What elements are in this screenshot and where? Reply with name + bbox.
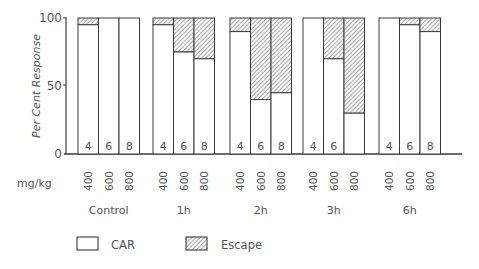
bar	[324, 18, 345, 154]
bar-segment-escape	[324, 18, 345, 59]
bar-count-label: 6	[257, 140, 264, 153]
bar-count-label: 8	[126, 140, 133, 153]
bar-segment-car	[153, 25, 174, 154]
bar-segment-escape	[78, 18, 99, 25]
bar-count-label: 4	[85, 140, 92, 153]
bar-count-label: 6	[180, 140, 187, 153]
bar	[230, 18, 251, 154]
bar-segment-car	[379, 18, 400, 154]
dose-label: 800	[198, 171, 210, 191]
x-unit-label: mg/kg	[17, 177, 52, 190]
dose-label: 600	[404, 171, 416, 191]
bar	[379, 18, 400, 154]
legend-swatch-escape	[186, 237, 207, 250]
bar	[119, 18, 140, 154]
bar-segment-car	[174, 52, 195, 154]
group-label: Control	[89, 204, 129, 217]
dose-label: 800	[424, 171, 436, 191]
bar-count-label: 4	[237, 140, 244, 153]
bar-count-label: 4	[160, 140, 167, 153]
bar-count-label: 8	[278, 140, 285, 153]
dose-label: 800	[348, 171, 360, 191]
legend: CAR Escape	[77, 237, 262, 252]
bar-segment-escape	[420, 18, 441, 32]
legend-label-car: CAR	[111, 238, 135, 252]
dose-label: 400	[307, 171, 319, 191]
bar	[174, 18, 195, 154]
bar-chart: Per Cent Response 100 50 0 4684684684646…	[0, 0, 479, 269]
y-axis-title: Per Cent Response	[30, 34, 43, 138]
dose-label: 400	[157, 171, 169, 191]
bar-segment-car	[78, 25, 99, 154]
dose-label: 400	[82, 171, 94, 191]
bar	[271, 18, 292, 154]
y-tick-label: 0	[54, 147, 62, 161]
bar-segment-car	[400, 25, 421, 154]
bar-count-label: 6	[406, 140, 413, 153]
bar-count-label: 6	[105, 140, 112, 153]
group-labels: Control1h2h3h6h	[89, 204, 417, 217]
group-label: 3h	[327, 204, 341, 217]
dose-label: 600	[255, 171, 267, 191]
group-label: 2h	[254, 204, 268, 217]
dose-labels: 4006008004006008004006008004006008004006…	[82, 171, 436, 191]
bar	[400, 18, 421, 154]
bar	[420, 18, 441, 154]
group-label: 1h	[177, 204, 191, 217]
y-tick-label: 50	[47, 79, 62, 93]
bar-segment-escape	[174, 18, 195, 52]
bar-segment-car	[119, 18, 140, 154]
dose-label: 600	[178, 171, 190, 191]
bar	[303, 18, 324, 154]
bar-count-label: 8	[201, 140, 208, 153]
bar-count-label: 8	[427, 140, 434, 153]
dose-label: 400	[234, 171, 246, 191]
bar	[344, 18, 365, 154]
bar	[251, 18, 272, 154]
group-label: 6h	[403, 204, 417, 217]
bar-segment-escape	[251, 18, 272, 100]
bar-segment-car	[99, 18, 120, 154]
bar-segment-car	[303, 18, 324, 154]
bar-segment-escape	[153, 18, 174, 25]
bars-layer	[78, 18, 441, 154]
y-tick-label: 100	[39, 11, 62, 25]
bar-segment-escape	[230, 18, 251, 32]
bar-count-label: 4	[386, 140, 393, 153]
bar-segment-car	[420, 32, 441, 154]
dose-label: 800	[275, 171, 287, 191]
bar	[78, 18, 99, 154]
bar-segment-escape	[344, 18, 365, 113]
bar-segment-escape	[400, 18, 421, 25]
dose-label: 600	[103, 171, 115, 191]
dose-label: 800	[123, 171, 135, 191]
bar-segment-escape	[194, 18, 215, 59]
y-ticks: 100 50 0	[39, 11, 66, 161]
dose-label: 600	[328, 171, 340, 191]
bar	[99, 18, 120, 154]
legend-label-escape: Escape	[221, 238, 262, 252]
bar-segment-escape	[271, 18, 292, 93]
bar	[153, 18, 174, 154]
bar	[194, 18, 215, 154]
dose-label: 400	[383, 171, 395, 191]
bar-segment-car	[230, 32, 251, 154]
bar-segment-car	[344, 113, 365, 154]
bar-count-label: 6	[330, 140, 337, 153]
bar-count-label: 4	[310, 140, 317, 153]
legend-swatch-car	[77, 237, 98, 250]
